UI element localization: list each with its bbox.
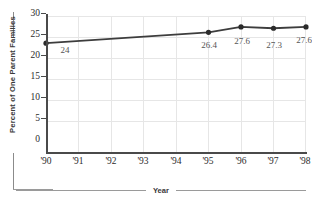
x-tick-label-93: '93 xyxy=(128,156,158,167)
y-tick-label-10: 10 xyxy=(6,92,40,102)
x-axis-title-rule-right xyxy=(176,190,306,191)
x-tick-label-97: '97 xyxy=(258,156,288,167)
x-tick-label-92: '92 xyxy=(96,156,126,167)
plot-area: 24 26.4 27.6 27.3 27.6 xyxy=(46,16,306,152)
y-tick-label-5: 5 xyxy=(6,113,40,123)
x-axis-title-block: Year xyxy=(16,182,306,198)
point-label-95: 26.4 xyxy=(192,40,226,50)
point-label-96: 27.6 xyxy=(225,36,259,46)
data-series-one-parent-families xyxy=(46,16,306,152)
y-tick-label-20: 20 xyxy=(6,50,40,60)
y-axis-tick-labels: 30 25 20 15 10 5 0 xyxy=(0,0,40,206)
x-tick-label-90: '90 xyxy=(31,156,61,167)
x-tick-label-95: '95 xyxy=(193,156,223,167)
y-tick-label-0: 0 xyxy=(6,134,40,144)
data-point-97 xyxy=(271,26,276,31)
x-tick-label-91: '91 xyxy=(63,156,93,167)
y-tick-label-15: 15 xyxy=(6,71,40,81)
y-tick-label-25: 25 xyxy=(6,29,40,39)
point-label-98: 27.6 xyxy=(287,35,312,45)
x-axis-tick-labels: '90 '91 '92 '93 '94 '95 '96 '97 '98 xyxy=(0,156,312,172)
y-tick-label-30: 30 xyxy=(6,8,40,18)
data-point-95 xyxy=(206,30,211,35)
data-point-96 xyxy=(238,24,243,29)
data-point-98 xyxy=(303,24,308,29)
y-axis-spine xyxy=(46,14,48,153)
x-tick-label-96: '96 xyxy=(226,156,256,167)
point-label-90: 24 xyxy=(48,45,82,55)
point-label-97: 27.3 xyxy=(257,40,291,50)
x-tick-label-98: '98 xyxy=(290,156,312,167)
x-axis-title-rule-left xyxy=(16,190,146,191)
x-axis-title: Year xyxy=(146,186,176,195)
line-chart-figure: Percent of One Parent Families 30 25 20 … xyxy=(0,0,312,206)
x-axis-spine xyxy=(46,152,307,154)
x-tick-label-94: '94 xyxy=(161,156,191,167)
